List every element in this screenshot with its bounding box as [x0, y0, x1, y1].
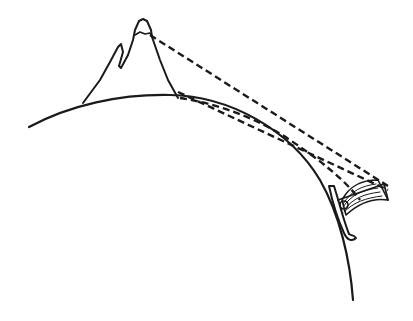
- ship-icon: [329, 180, 388, 240]
- diagram-canvas: [0, 0, 413, 321]
- earth-surface-curve: [29, 95, 353, 300]
- earth-curvature-diagram: [0, 0, 413, 321]
- sight-line-horizon: [180, 98, 360, 200]
- mountain-icon: [83, 19, 178, 103]
- sight-line-tangent: [178, 92, 388, 190]
- sight-line-peak: [150, 35, 388, 186]
